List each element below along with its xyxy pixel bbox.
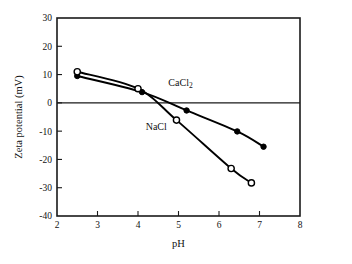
series-annotation-nacl: NaCl bbox=[146, 121, 167, 132]
series-annotation-cacl2: CaCl2 bbox=[168, 77, 193, 91]
data-point-nacl-2 bbox=[173, 117, 179, 123]
x-tick-label: 6 bbox=[217, 220, 222, 230]
data-point-nacl-3 bbox=[228, 165, 234, 171]
y-tick-label: 10 bbox=[43, 70, 53, 80]
x-tick-label: 5 bbox=[176, 220, 181, 230]
y-tick-label: -20 bbox=[39, 155, 52, 165]
y-tick-label: -40 bbox=[39, 211, 52, 221]
data-point-nacl-1 bbox=[135, 86, 141, 92]
data-point-cacl2-2 bbox=[184, 108, 189, 113]
data-point-nacl-0 bbox=[74, 69, 80, 75]
x-tick-label: 2 bbox=[55, 220, 60, 230]
x-axis-tick-labels: 2345678 bbox=[55, 220, 303, 230]
y-tick-label: 30 bbox=[43, 13, 53, 23]
y-tick-label: 20 bbox=[43, 42, 53, 52]
y-tick-label: -30 bbox=[39, 183, 52, 193]
zeta-potential-chart: 2345678 3020100-10-20-30-40 CaCl2NaCl pH… bbox=[0, 0, 352, 264]
y-axis-title: Zeta potential (mV) bbox=[13, 75, 25, 159]
data-point-cacl2-4 bbox=[261, 144, 266, 149]
figure-container: 2345678 3020100-10-20-30-40 CaCl2NaCl pH… bbox=[0, 0, 352, 264]
x-tick-label: 3 bbox=[95, 220, 100, 230]
x-tick-label: 4 bbox=[136, 220, 141, 230]
y-tick-label: -10 bbox=[39, 127, 52, 137]
x-tick-label: 7 bbox=[257, 220, 262, 230]
series-curves bbox=[77, 72, 263, 183]
x-axis-title: pH bbox=[172, 238, 185, 249]
series-annotations: CaCl2NaCl bbox=[146, 77, 193, 132]
data-point-nacl-4 bbox=[248, 180, 254, 186]
data-point-cacl2-3 bbox=[235, 129, 240, 134]
y-tick-label: 0 bbox=[47, 98, 52, 108]
y-axis-tick-labels: 3020100-10-20-30-40 bbox=[39, 13, 52, 221]
x-tick-label: 8 bbox=[298, 220, 303, 230]
